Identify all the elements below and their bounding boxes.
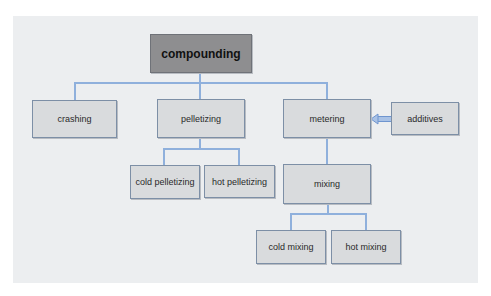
node-cold-pelletizing[interactable]: cold pelletizing [130,165,200,199]
node-label: metering [309,114,344,124]
node-label: pelletizing [181,114,221,124]
node-hot-mixing[interactable]: hot mixing [331,230,401,264]
connector-metering-to-mixing [326,137,328,164]
arrow-left-icon [370,113,392,125]
connector-to-crashing [74,82,76,100]
connector-pelletizing-bar [163,148,240,150]
node-label: hot mixing [345,242,386,252]
node-label: compounding [161,47,240,61]
node-hot-pelletizing[interactable]: hot pelletizing [204,165,275,198]
node-label: cold pelletizing [135,177,194,187]
node-pelletizing[interactable]: pelletizing [157,99,245,138]
connector-to-metering [326,82,328,99]
node-label: additives [407,114,443,124]
node-additives[interactable]: additives [391,102,459,135]
connector-to-cold-mixing [290,213,292,230]
connector-mixing-bar [290,213,367,215]
node-label: cold mixing [268,242,313,252]
node-mixing[interactable]: mixing [283,164,371,204]
node-compounding[interactable]: compounding [150,34,252,73]
node-metering[interactable]: metering [283,99,371,138]
connector-level1-bar [74,82,328,84]
node-cold-mixing[interactable]: cold mixing [256,230,326,264]
connector-to-hot-pelletizing [238,148,240,165]
connector-to-pelletizing [199,82,201,99]
node-label: crashing [57,114,91,124]
connector-to-cold-pelletizing [163,148,165,165]
node-label: mixing [314,179,340,189]
node-label: hot pelletizing [212,177,267,187]
connector-to-hot-mixing [365,213,367,230]
node-crashing[interactable]: crashing [32,100,117,138]
